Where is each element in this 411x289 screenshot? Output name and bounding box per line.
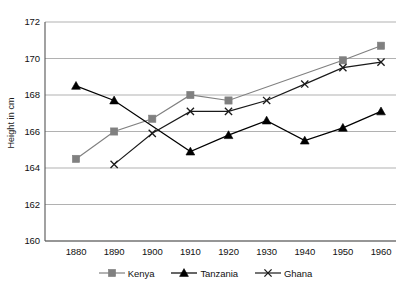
data-point-ghana-1900 <box>149 130 156 137</box>
data-point-kenya-1890 <box>111 128 118 135</box>
y-tick-label: 166 <box>14 126 40 137</box>
data-point-kenya-1950 <box>339 57 346 64</box>
data-point-tanzania-1930 <box>262 116 271 124</box>
x-tick-label: 1900 <box>135 246 169 257</box>
y-tick-label: 172 <box>14 16 40 27</box>
legend-item-kenya[interactable]: Kenya <box>99 267 155 279</box>
x-tick-label: 1940 <box>288 246 322 257</box>
y-tick-label: 164 <box>14 162 40 173</box>
data-point-tanzania-1950 <box>338 123 347 131</box>
y-tick-label: 160 <box>14 235 40 246</box>
x-tick-label: 1950 <box>326 246 360 257</box>
x-tick-label: 1960 <box>364 246 398 257</box>
x-tick-label: 1920 <box>212 246 246 257</box>
square-marker <box>99 267 125 279</box>
data-point-kenya-1910 <box>187 91 194 98</box>
x-tick-label: 1880 <box>59 246 93 257</box>
data-point-ghana-1930 <box>263 97 270 104</box>
data-point-tanzania-1890 <box>110 96 119 104</box>
data-point-kenya-1880 <box>72 155 79 162</box>
legend-item-tanzania[interactable]: Tanzania <box>171 267 238 279</box>
series-line-ghana <box>114 62 381 164</box>
triangle-marker <box>171 267 197 279</box>
data-point-kenya-1960 <box>377 42 384 49</box>
data-point-tanzania-1960 <box>377 107 386 115</box>
data-point-kenya-1920 <box>225 97 232 104</box>
line-chart: Height in cm 160162164166168170172 18801… <box>0 0 411 289</box>
legend-label: Tanzania <box>200 268 238 279</box>
series-line-tanzania <box>76 86 381 152</box>
x-tick-label: 1890 <box>97 246 131 257</box>
data-point-tanzania-1910 <box>186 147 195 155</box>
x-tick-label: 1910 <box>173 246 207 257</box>
data-point-ghana-1890 <box>111 161 118 168</box>
legend-label: Kenya <box>128 268 155 279</box>
data-point-ghana-1940 <box>301 80 308 87</box>
data-point-tanzania-1880 <box>72 81 81 89</box>
y-tick-label: 168 <box>14 89 40 100</box>
data-point-kenya-1900 <box>149 115 156 122</box>
cross-marker <box>255 267 281 279</box>
x-tick-label: 1930 <box>250 246 284 257</box>
y-tick-label: 162 <box>14 199 40 210</box>
legend-item-ghana[interactable]: Ghana <box>255 267 312 279</box>
y-tick-label: 170 <box>14 53 40 64</box>
legend-label: Ghana <box>284 268 312 279</box>
chart-legend: KenyaTanzaniaGhana <box>0 264 411 282</box>
square-glyph <box>108 269 115 276</box>
